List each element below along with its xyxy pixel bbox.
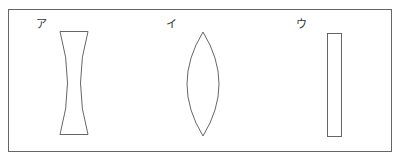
concave-lens — [60, 32, 88, 135]
label-i: イ — [166, 19, 177, 30]
convex-lens — [187, 32, 219, 136]
glass-plate — [328, 34, 342, 137]
label-a: ア — [36, 19, 47, 30]
lens-diagram — [0, 0, 397, 158]
label-u: ウ — [296, 19, 307, 30]
